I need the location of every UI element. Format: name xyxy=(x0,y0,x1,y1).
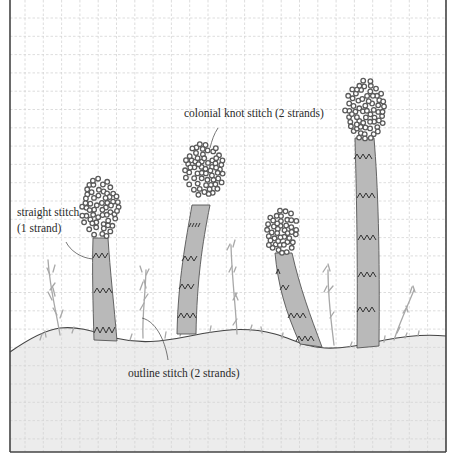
label-colonial-knot: colonial knot stitch (2 strands) xyxy=(184,107,324,120)
ground-area xyxy=(10,328,446,452)
stitch-diagram: colonial knot stitch (2 strands) straigh… xyxy=(0,0,453,460)
diagram-canvas: colonial knot stitch (2 strands) straigh… xyxy=(0,0,453,460)
label-straight-stitch-1: straight stitch xyxy=(17,206,80,219)
label-outline-stitch: outline stitch (2 strands) xyxy=(128,367,240,380)
label-straight-stitch-2: (1 strand) xyxy=(17,222,62,235)
stem-4 xyxy=(355,138,379,348)
